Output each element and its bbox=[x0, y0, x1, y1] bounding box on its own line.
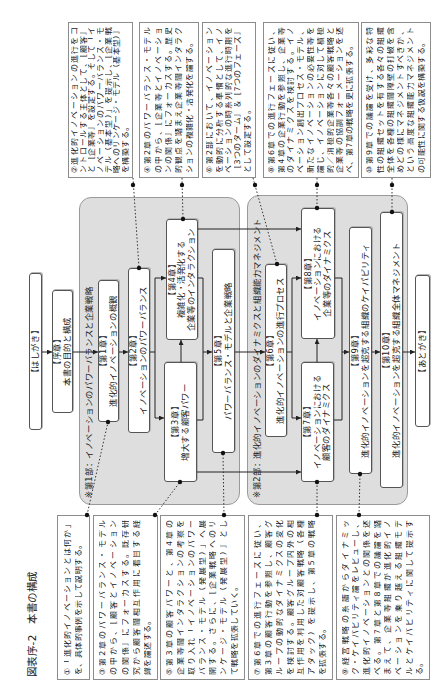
note-10: ⑩第9章での議論を受け、多彩な特性の組織セットを有する各々の組織全体を各種の組織… bbox=[361, 22, 431, 178]
part1-label: ※第1部：イノベーションのパワーバランスと企業戦略 bbox=[84, 287, 94, 498]
chapter-1-box: 【第1章】 進化的イノベーションの概観 bbox=[98, 280, 119, 422]
text-line: の中から、［顧客とイノベーション bbox=[110, 520, 118, 675]
text-line: ントロールする主体として、［顧客］ bbox=[80, 27, 88, 173]
text-line: て戦略を拡張していく。 bbox=[231, 520, 239, 675]
text-line: の中から、［企業等とイノベーショ bbox=[155, 27, 163, 173]
text-line: 論じ、イノベーションに対して積極 bbox=[317, 27, 325, 173]
text-line: ンケージ・モデル（発展型）］とし bbox=[220, 520, 228, 675]
text-line: 取り入れ「イノベーションのパワー bbox=[188, 520, 196, 675]
chapter-title: 増大する顧客パワー bbox=[181, 383, 191, 460]
note-4: ④第2章のパワーバランス・モデルの中から、［企業等とイノベーションの関係］にフォ… bbox=[139, 22, 199, 178]
text-line: 略へのリンケージ・モデル（基本型）］ bbox=[113, 27, 121, 173]
chapter-title: 進化的イノベーションの進行プロセス bbox=[276, 277, 286, 423]
text-line: パワーバランス・モデルと企業戦略 bbox=[224, 282, 234, 420]
text-line: 新たなイノベーションの必要性等を bbox=[307, 27, 315, 173]
note-text: ④第2章のパワーバランス・モデルの中から、［企業等とイノベーションの関係］にフォ… bbox=[142, 27, 196, 173]
text-line: ノベーションのパワーバランス・モ bbox=[97, 27, 105, 173]
text-line: ループの動的なダイナミクスの変化 bbox=[276, 520, 284, 675]
text-line: を、具体的事例を示して説明する。 bbox=[75, 520, 83, 675]
text-line: として設定する。 bbox=[244, 27, 252, 173]
text-line: を動的に分析する準備として、イノ bbox=[216, 27, 224, 173]
text-line: べ、第7章の戦略を更に拡張する。 bbox=[346, 27, 354, 173]
text-line: ベーションを乗り越える組織モデ bbox=[395, 520, 403, 675]
text-line: ②進化的イノベーションの進行をコ bbox=[71, 27, 79, 173]
text-line: ルとケイパビリティに関して提示す bbox=[406, 520, 414, 675]
text-line: ションの複雑化・活発化を論ずる。 bbox=[186, 27, 194, 173]
text-line: る。 bbox=[416, 520, 424, 675]
text-line: と［企業等］を設定する。そして「イ bbox=[88, 27, 96, 173]
note-7: ⑦第6章での進行フェーズに従い、第3章の顧客行動を参照し、顧客グループの動的なダ… bbox=[248, 515, 333, 680]
text-line: 的観点を踏まえ企業等間インタラク bbox=[175, 27, 183, 173]
text-line: 進化的イノベーションの進行プロセス bbox=[276, 277, 286, 423]
text-line: の関係］にフォーカスする。既存研 bbox=[122, 520, 130, 675]
chapter-2-box: 【第2章】 イノベーションのパワーバランス bbox=[128, 268, 150, 433]
text-line: のダイナミクスを検討する。イノ bbox=[287, 27, 295, 173]
text-line: ①「進化的イノベーションとは何か」 bbox=[64, 520, 72, 675]
afterword-box: 【あとがき】 bbox=[415, 275, 430, 427]
chapter-5-box: 【第5章】 パワーバランス・モデルと企業戦略 bbox=[212, 249, 235, 453]
text-line: ク・ケイパビリティ論をレビューし、 bbox=[352, 520, 360, 675]
text-line: 緯を論述する。 bbox=[144, 520, 152, 675]
text-line: 進化的イノベーションを超克する組織全体マネジメント bbox=[392, 243, 402, 458]
text-line: ④第2章のパワーバランス・モデル bbox=[144, 27, 152, 173]
text-line: 顧客のダイナミクス bbox=[322, 383, 332, 460]
afterword-label: 【あとがき】 bbox=[418, 325, 428, 377]
chapter-title: 進化的イノベーションを超克する組織のケイパビリティ bbox=[361, 243, 371, 458]
text-line: ［3つのターム］＆［7つのフェーズ］ bbox=[234, 27, 242, 173]
text-line: を検討する。顧客グループ内外の相 bbox=[287, 520, 295, 675]
chapter-title: 進化的イノベーションを超克する組織全体マネジメント bbox=[392, 243, 402, 458]
text-line: の可能性に関する仮説を構築する。 bbox=[418, 27, 426, 173]
chapter-title: 複雑化・活発化する企業等のインタラクション bbox=[177, 228, 196, 331]
note-text: ②進化的イノベーションの進行をコントロールする主体として、［顧客］と［企業等］を… bbox=[71, 27, 130, 173]
text-line: アタック）を提示し、第5章の戦略 bbox=[308, 520, 316, 675]
text-line: 企業等の協調フォーメーションを述 bbox=[336, 27, 344, 173]
text-line: 的／消極的企業等各々の顧客戦略と bbox=[327, 27, 335, 173]
chapter-title: イノベーションにおける顧客のダイナミクス bbox=[313, 375, 332, 470]
text-line: 全体を各種の組織間障壁の打破を含 bbox=[387, 27, 395, 173]
chapter-3-box: 【第3章】 増大する顧客パワー bbox=[164, 362, 197, 482]
book-structure-figure: 図表序-2 本書の構成 ※第1部：イノベーションのパワーバランスと企業戦略 ※第… bbox=[0, 0, 447, 696]
note-text: ⑩第9章での議論を受け、多彩な特性の組織セットを有する各々の組織全体を各種の組織… bbox=[364, 27, 428, 173]
text-line: 進化的イノベーションとの関係を述 bbox=[363, 520, 371, 675]
chapter-7-box: 【第7章】 イノベーションにおける顧客のダイナミクス bbox=[301, 362, 334, 482]
text-line: 進化的イノベーションを超克する組織のケイパビリティ bbox=[361, 243, 371, 458]
preface-box: 【はしがき】 bbox=[29, 273, 42, 430]
note-9: ⑨経営戦略の系譜からダイナミック・ケイパビリティ論をレビューし、進化的イノベーシ… bbox=[336, 515, 430, 680]
chapter-6-box: 【第6章】 進化的イノベーションの進行プロセス bbox=[265, 264, 287, 437]
text-line: 増大する顧客パワー bbox=[181, 383, 191, 460]
text-line: ベーション創出プロセス・モデル、 bbox=[297, 27, 305, 173]
note-8: ⑧第6章での進行フェーズに従い、第4章の企業行動を参照し、企業等のダイナミクスを… bbox=[263, 22, 359, 178]
chapter-8-box: 【第8章】 イノベーションにおける企業等のダイナミクス bbox=[301, 208, 335, 339]
note-2: ②進化的イノベーションの進行をコントロールする主体として、［顧客］と［企業等］を… bbox=[68, 22, 133, 178]
chapter-9-box: 【第9章】 進化的イノベーションを超克する組織のケイパビリティ bbox=[349, 227, 372, 474]
text-line: めどの様にマネジメントすべきか、 bbox=[397, 27, 405, 173]
text-line: ⑦第6章での進行フェーズに従い、 bbox=[254, 520, 262, 675]
text-line: 進化的イノベーションの概観 bbox=[109, 295, 119, 407]
note-1: ①「進化的イノベーションとは何か」を、具体的事例を示して説明する。 bbox=[57, 515, 90, 680]
figure-title: 図表序-2 本書の構成 bbox=[26, 571, 38, 677]
text-line: 互作用を利用した対顧客戦略（各種 bbox=[297, 520, 305, 675]
text-line: 第3章の顧客行動を参照し、顧客グ bbox=[265, 520, 273, 675]
chapter-4-box: 【第4章】 複雑化・活発化する企業等のインタラクション bbox=[166, 219, 198, 340]
chapter-title: 本書の目的と構成 bbox=[63, 317, 73, 386]
text-line: を拡張する。 bbox=[319, 520, 327, 675]
chapter-title: イノベーションにおける企業等のダイナミクス bbox=[313, 226, 332, 321]
text-line: ⑧第6章での進行フェーズに従い、 bbox=[268, 27, 276, 173]
text-line: デル（基本型）」を提示し、［企業戦 bbox=[105, 27, 113, 173]
note-text: ⑧第6章での進行フェーズに従い、第4章の企業行動を参照し、企業等のダイナミクスを… bbox=[266, 27, 356, 173]
chapter-title: イノベーションのパワーバランス bbox=[139, 286, 149, 415]
text-line: ⑥第2部において、イノベーション bbox=[206, 27, 214, 173]
text-line: イノベーションのパワーバランス bbox=[139, 286, 149, 415]
note-text: ⑥第2部において、イノベーションを動的に分析する準備として、イノベーションの時系… bbox=[205, 27, 253, 173]
text-line: 企業等のダイナミクス bbox=[323, 231, 333, 317]
note-text: ⑤第3章の顧客パワーと、第4章の企業等間インタラクションの考察を取り入れ「イノベ… bbox=[163, 520, 242, 675]
text-line: という高度な組織能力マネジメント bbox=[407, 27, 415, 173]
chapter-10-box: 【第10章】 進化的イノベーションを超克する組織全体マネジメント bbox=[380, 212, 403, 488]
note-text: ③第2章のパワーバランス・モデルの中から、［顧客とイノベーションの関係］にフォー… bbox=[96, 520, 155, 675]
note-3: ③第2章のパワーバランス・モデルの中から、［顧客とイノベーションの関係］にフォー… bbox=[93, 515, 158, 680]
preface-label: 【はしがき】 bbox=[31, 326, 41, 378]
text-line: べる。第7章と第8章での議論を踏 bbox=[374, 520, 382, 675]
intro-chapter-box: 【序章】 本書の目的と構成 bbox=[52, 290, 73, 413]
note-6: ⑥第2部において、イノベーションを動的に分析する準備として、イノベーションの時系… bbox=[202, 22, 256, 178]
text-line: ⑨経営戦略の系譜からダイナミッ bbox=[342, 520, 350, 675]
